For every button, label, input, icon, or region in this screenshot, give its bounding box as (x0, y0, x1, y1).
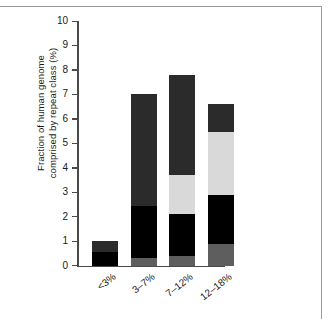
bar-segment-segment-dark-gray (208, 104, 234, 132)
y-axis-tick-7 (72, 94, 77, 95)
bar-segment-segment-light-gray (169, 175, 195, 214)
y-axis-tick-2 (72, 216, 77, 217)
y-axis-tick-label-7: 7 (44, 88, 68, 99)
bar-7–12%[interactable] (169, 75, 195, 266)
y-axis-tick-label-2: 2 (44, 211, 68, 222)
y-axis-tick-label-5: 5 (44, 137, 68, 148)
page-frame-right-rule (321, 6, 322, 319)
y-axis-tick-6 (72, 118, 77, 119)
x-axis-tick-label-7–12%: 7–12% (156, 271, 194, 304)
x-axis-line (77, 266, 225, 268)
y-axis-tick-label-10: 10 (44, 15, 68, 26)
bar-segment-segment-dark-gray (169, 75, 195, 175)
y-axis-tick-label-9: 9 (44, 39, 68, 50)
y-axis-tick-label-6: 6 (44, 113, 68, 124)
y-axis-tick-label-3: 3 (44, 186, 68, 197)
y-axis-tick-10 (72, 21, 77, 22)
y-axis-tick-9 (72, 45, 77, 46)
y-axis-tick-1 (72, 241, 77, 242)
bar-segment-segment-bottom-gray (131, 258, 157, 266)
y-axis-tick-8 (72, 69, 77, 70)
y-axis-tick-5 (72, 143, 77, 144)
bar-12–18%[interactable] (208, 104, 234, 265)
y-axis-tick-label-8: 8 (44, 64, 68, 75)
bar-segment-segment-dark-gray (131, 94, 157, 205)
y-axis-line (77, 21, 79, 267)
y-axis-tick-3 (72, 192, 77, 193)
y-axis-tick-label-0: 0 (44, 260, 68, 271)
figure-panel: Fraction of human genome comprised by re… (0, 0, 328, 319)
bar-3–7%[interactable] (131, 94, 157, 265)
bar-segment-segment-bottom-gray (208, 244, 234, 266)
bar-segment-segment-dark-gray (92, 241, 118, 252)
x-axis-tick-label-3–7%: 3–7% (118, 271, 156, 304)
bar-segment-segment-black (169, 214, 195, 256)
x-axis-tick-label-<3%: <3% (79, 271, 117, 304)
y-axis-tick-0 (72, 265, 77, 266)
bar-segment-segment-black (92, 252, 118, 265)
y-axis-tick-4 (72, 167, 77, 168)
bar-segment-segment-black (208, 195, 234, 244)
bar-<3%[interactable] (92, 241, 118, 265)
bar-segment-segment-black (131, 206, 157, 258)
bar-segment-segment-light-gray (208, 132, 234, 194)
y-axis-tick-label-1: 1 (44, 235, 68, 246)
x-axis-tick-label-12–18%: 12–18% (195, 271, 233, 304)
bar-segment-segment-bottom-gray (169, 256, 195, 265)
y-axis-tick-label-4: 4 (44, 162, 68, 173)
